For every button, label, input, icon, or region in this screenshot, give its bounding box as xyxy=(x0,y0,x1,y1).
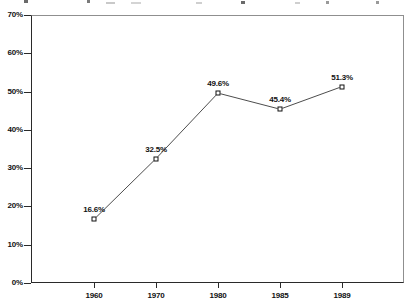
data-point-marker xyxy=(278,107,283,112)
series-line xyxy=(0,0,406,304)
data-point-marker xyxy=(340,84,345,89)
line-chart: 70%60%50%40%30%20%10%0% 1960197019801985… xyxy=(0,0,406,304)
data-point-marker xyxy=(216,91,221,96)
series-polyline xyxy=(94,87,342,220)
data-point-label: 16.6% xyxy=(74,205,114,214)
data-point-marker xyxy=(92,217,97,222)
data-point-label: 45.4% xyxy=(260,95,300,104)
data-point-label: 51.3% xyxy=(322,73,362,82)
data-point-label: 49.6% xyxy=(198,79,238,88)
data-point-marker xyxy=(154,156,159,161)
data-point-label: 32.5% xyxy=(136,145,176,154)
